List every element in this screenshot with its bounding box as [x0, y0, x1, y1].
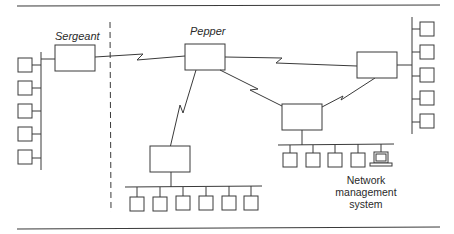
wan-link-sergeant-pepper — [95, 54, 185, 60]
wan-link-pepper-bottom-right — [220, 70, 282, 106]
host — [18, 150, 41, 164]
nms-label-line2: management — [335, 186, 396, 198]
bottom-middle-lan-bus — [125, 186, 262, 187]
nms-label-line1: Network — [347, 174, 386, 186]
host — [412, 22, 434, 36]
wan-link-pepper-right — [225, 57, 357, 66]
bottom-right-router — [282, 104, 322, 130]
host — [222, 186, 236, 210]
bottom-middle-router — [150, 146, 190, 172]
host — [412, 91, 434, 105]
wan-link-bottom-right-right — [322, 78, 375, 107]
bottom-rule — [17, 227, 440, 229]
host — [306, 145, 320, 167]
wan-link-pepper-bottom-middle — [170, 70, 196, 148]
host — [283, 145, 297, 167]
right-router — [357, 52, 397, 78]
host — [130, 187, 144, 211]
bottom-middle-lan — [125, 172, 262, 211]
host — [328, 145, 342, 167]
pepper-label: Pepper — [190, 25, 227, 37]
host — [244, 186, 258, 210]
network-diagram: Sergeant Pepper — [0, 0, 454, 234]
bottom-right-lan — [278, 130, 394, 167]
host — [351, 144, 365, 167]
host — [412, 68, 434, 82]
host — [18, 104, 41, 118]
left-lan — [18, 52, 55, 170]
host — [18, 127, 41, 141]
host — [199, 187, 213, 210]
sergeant-label: Sergeant — [55, 30, 101, 42]
bottom-right-lan-bus — [278, 144, 394, 145]
host — [153, 187, 167, 211]
sergeant-router — [55, 45, 95, 71]
boundary-dashed-line — [110, 22, 111, 212]
pepper-router — [185, 44, 225, 70]
host — [412, 114, 434, 128]
host — [18, 58, 41, 72]
top-rule — [17, 5, 440, 6]
laptop-icon — [370, 144, 392, 166]
nms-label-line3: system — [349, 198, 383, 210]
right-lan — [397, 17, 434, 134]
host — [18, 81, 41, 95]
host — [176, 187, 190, 210]
host — [412, 45, 434, 59]
